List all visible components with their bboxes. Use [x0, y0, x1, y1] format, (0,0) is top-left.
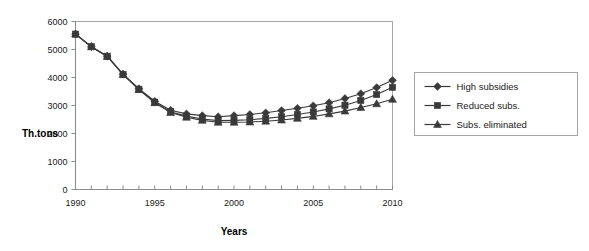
- y-tick-labels: 0100020003000400050006000: [47, 17, 67, 195]
- x-tick-label: 2005: [303, 198, 323, 208]
- x-tick-label: 2010: [382, 198, 402, 208]
- y-tick-label: 3000: [47, 101, 67, 111]
- y-tick-label: 1000: [47, 157, 67, 167]
- legend-label: High subsidies: [457, 81, 519, 92]
- x-tick-label: 1990: [65, 198, 85, 208]
- marker-square: [389, 84, 395, 90]
- chart-figure: 0100020003000400050006000 19901995200020…: [0, 0, 589, 251]
- legend-label: Subs. eliminated: [457, 119, 527, 130]
- y-tick-label: 6000: [47, 17, 67, 27]
- y-tick-label: 5000: [47, 45, 67, 55]
- line-chart: 0100020003000400050006000 19901995200020…: [0, 0, 589, 251]
- x-tick-label: 1995: [145, 198, 165, 208]
- legend-label: Reduced subs.: [457, 100, 520, 111]
- y-tick-marks: [72, 22, 76, 190]
- y-tick-label: 4000: [47, 73, 67, 83]
- marker-square: [374, 91, 380, 97]
- x-tick-labels: 19901995200020052010: [65, 198, 402, 208]
- marker-square: [434, 102, 440, 108]
- x-axis-title: Years: [221, 226, 248, 237]
- x-tick-marks: [76, 186, 393, 190]
- y-tick-label: 0: [62, 185, 67, 195]
- y-axis-title: Th.tons: [22, 128, 59, 139]
- x-tick-label: 2000: [224, 198, 244, 208]
- marker-square: [358, 97, 364, 103]
